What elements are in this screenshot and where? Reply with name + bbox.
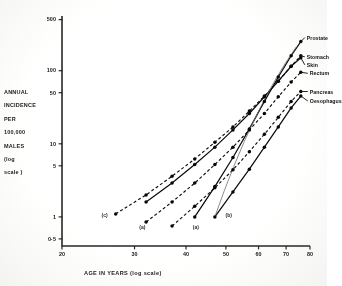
- y-tick-label: 10: [26, 141, 56, 147]
- x-tick-label: 50: [216, 251, 236, 257]
- series-label-pancreas: Pancreas: [310, 89, 333, 95]
- leader-line: [301, 58, 305, 65]
- data-point: [248, 150, 252, 154]
- annotation-note: (a): [193, 224, 199, 230]
- data-point: [213, 163, 217, 167]
- data-point: [213, 215, 217, 219]
- data-point: [231, 156, 235, 160]
- y-axis-title-line-1: INCIDENCE: [4, 99, 58, 112]
- x-axis-title: AGE IN YEARS (log scale): [84, 270, 162, 276]
- annotation-note: (c): [102, 212, 108, 218]
- data-point: [289, 65, 293, 69]
- series-label-stomach: Stomach: [307, 54, 329, 60]
- y-tick-label: 0·5: [26, 236, 56, 242]
- y-tick-label: 1: [26, 214, 56, 220]
- chart-svg: [62, 16, 310, 246]
- series-line-rectum: [146, 72, 301, 222]
- data-point: [213, 145, 217, 149]
- data-point: [289, 80, 293, 84]
- data-point: [231, 168, 235, 172]
- x-tick-label: 70: [276, 251, 296, 257]
- data-point: [193, 204, 197, 208]
- y-tick-label: 50: [26, 90, 56, 96]
- data-point: [213, 141, 217, 145]
- data-point: [248, 128, 252, 132]
- data-point: [277, 95, 281, 99]
- data-point: [263, 145, 267, 149]
- data-point: [289, 100, 293, 104]
- data-point: [213, 186, 217, 190]
- data-point: [193, 181, 197, 185]
- data-point: [263, 112, 267, 116]
- y-tick-label: 100: [26, 67, 56, 73]
- data-point: [231, 190, 235, 194]
- series-label-prostate: Prostate: [307, 35, 328, 41]
- series-label-oesophagus: Oesophagus: [310, 98, 342, 104]
- series-line-pancreas: [172, 91, 301, 226]
- axes-group: [62, 16, 310, 246]
- data-point: [263, 95, 267, 99]
- data-point: [263, 133, 267, 137]
- y-tick-label: 5: [26, 163, 56, 169]
- data-point: [193, 163, 197, 167]
- data-point: [263, 100, 267, 104]
- plot-area: [62, 16, 310, 246]
- label-leaders: [301, 38, 308, 101]
- data-point: [170, 181, 174, 185]
- leader-line: [301, 96, 308, 101]
- series-curves: [116, 42, 301, 226]
- data-point: [193, 215, 197, 219]
- x-tick-label: 30: [125, 251, 145, 257]
- data-point: [277, 79, 281, 83]
- data-point: [277, 125, 281, 128]
- x-tick-label: 80: [300, 251, 320, 257]
- data-point: [248, 167, 252, 171]
- data-point: [289, 54, 293, 58]
- data-point: [170, 174, 174, 178]
- data-point: [231, 145, 235, 149]
- data-point: [144, 220, 148, 224]
- data-point: [170, 200, 174, 204]
- y-axis-title-line-2: PER: [4, 113, 58, 126]
- series-line-skin: [146, 58, 301, 202]
- data-point: [114, 212, 118, 216]
- data-point: [144, 200, 148, 204]
- data-point: [231, 128, 235, 132]
- data-point: [193, 157, 197, 161]
- series-label-rectum: Rectum: [310, 70, 329, 76]
- y-axis-title-line-3: 100,000: [4, 126, 58, 139]
- series-label-skin: Skin: [307, 62, 318, 68]
- x-tick-label: 60: [249, 251, 269, 257]
- data-point: [144, 193, 148, 197]
- annotation-note: (b): [226, 212, 232, 218]
- data-point: [248, 112, 252, 116]
- leader-line: [301, 38, 305, 42]
- annotation-note: (a): [139, 224, 145, 230]
- x-tick-label: 40: [176, 251, 196, 257]
- data-point: [277, 116, 281, 120]
- data-point: [170, 224, 174, 228]
- x-tick-label: 20: [52, 251, 72, 257]
- data-point: [277, 75, 281, 79]
- data-point: [289, 106, 293, 110]
- y-tick-label: 500: [26, 16, 56, 22]
